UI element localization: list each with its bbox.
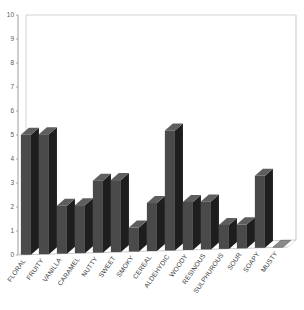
y-tick-label: 7 (10, 83, 14, 90)
bar-side-face (49, 127, 57, 254)
bar-side-face (85, 198, 93, 253)
y-tick-label: 2 (10, 203, 14, 210)
bar-front-face (255, 176, 265, 248)
y-tick-label: 4 (10, 155, 14, 162)
bar-side-face (67, 199, 75, 254)
y-axis-ticks: 012345678910 (7, 11, 18, 258)
bar-side-face (193, 195, 201, 250)
bar-side-face (31, 128, 39, 255)
y-tick-label: 8 (10, 59, 14, 66)
bar-front-face (75, 205, 85, 253)
bar-column (75, 198, 93, 253)
bar-zero-plate (273, 240, 291, 247)
y-tick-label: 5 (10, 131, 14, 138)
bar-side-face (265, 169, 273, 248)
bar-side-face (121, 173, 129, 252)
bar-column (165, 123, 183, 250)
chart-canvas: 012345678910 FLORALFRUITYVANILLACARAMELN… (0, 0, 304, 310)
x-category-label: MUSTY (259, 249, 279, 273)
bar-front-face (201, 201, 211, 249)
bar-column (273, 240, 291, 247)
bar-column (237, 217, 255, 248)
bar-front-face (93, 181, 103, 253)
x-axis-category-labels: FLORALFRUITYVANILLACARAMELNUTTYSWEETSMOK… (6, 249, 279, 294)
bar-front-face (183, 202, 193, 250)
bar-front-face (111, 180, 121, 252)
bar-front-face (129, 228, 139, 252)
bar-front-face (219, 225, 229, 249)
x-category-label: SOUR (226, 251, 243, 271)
bar-column (219, 218, 237, 249)
bar-column (183, 195, 201, 250)
bar-series (21, 123, 291, 254)
bar-column (111, 173, 129, 252)
bar-front-face (237, 224, 247, 248)
bar-column (21, 128, 39, 255)
bar-chart: 012345678910 FLORALFRUITYVANILLACARAMELN… (0, 0, 304, 310)
y-tick-label: 3 (10, 179, 14, 186)
bar-column (57, 199, 75, 254)
bar-column (129, 221, 147, 252)
y-tick-label: 6 (10, 107, 14, 114)
y-tick-label: 0 (10, 251, 14, 258)
bar-column (39, 127, 57, 254)
bar-column (201, 194, 219, 249)
bar-side-face (211, 194, 219, 249)
y-tick-label: 10 (7, 11, 15, 18)
bar-front-face (21, 135, 31, 255)
y-tick-label: 9 (10, 35, 14, 42)
bar-front-face (39, 134, 49, 254)
bar-side-face (157, 196, 165, 251)
y-tick-label: 1 (10, 227, 14, 234)
x-category-label: SWEET (97, 255, 117, 279)
bar-side-face (175, 123, 183, 250)
bar-front-face (147, 203, 157, 251)
bar-column (255, 169, 273, 248)
bar-column (147, 196, 165, 251)
bar-side-face (103, 174, 111, 253)
x-category-label: SOAPY (242, 250, 261, 274)
bar-column (93, 174, 111, 253)
bar-front-face (57, 206, 67, 254)
x-category-label: FLORAL (6, 257, 27, 283)
bar-front-face (165, 130, 175, 250)
